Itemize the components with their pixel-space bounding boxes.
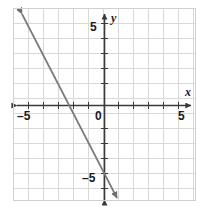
x-tick-label-pos5: 5 [178,110,185,122]
y-tick-label-neg5: –5 [82,172,95,184]
x-tick-label-zero: 0 [95,110,102,122]
x-tick-label-neg5: –5 [17,110,30,122]
y-tick-label-pos5: 5 [90,21,97,33]
y-axis-label: y [111,12,116,24]
coordinate-graph: –5 0 5 5 –5 x y [0,0,207,212]
x-axis-label: x [185,86,191,98]
graph-canvas [0,0,207,212]
